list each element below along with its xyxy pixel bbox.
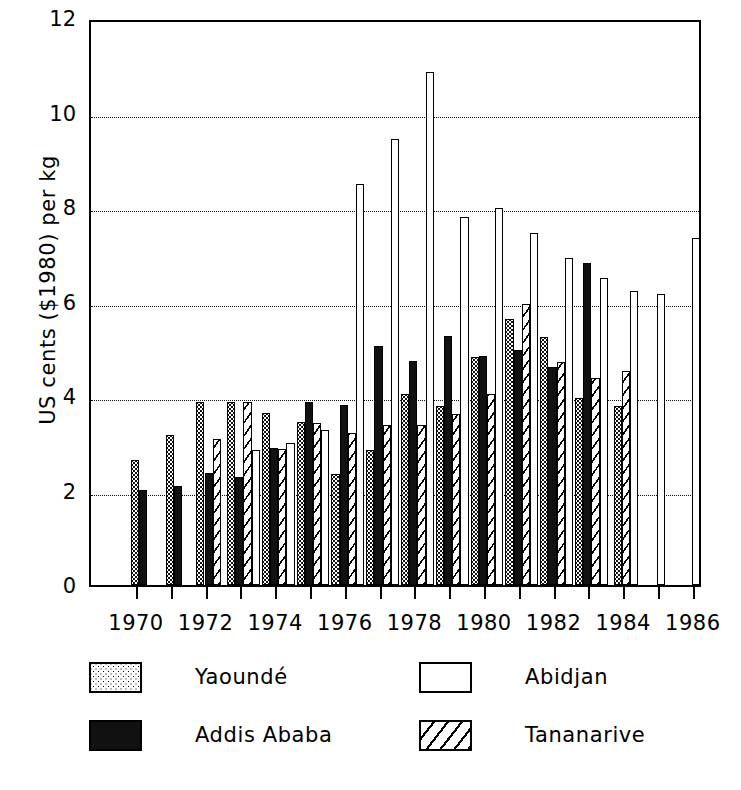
x-axis-tick-mark xyxy=(588,587,590,599)
bar xyxy=(622,371,630,585)
bar xyxy=(243,402,251,585)
bar xyxy=(313,423,321,585)
x-axis-tick-label: 1986 xyxy=(653,611,733,635)
bar xyxy=(460,217,468,585)
bar xyxy=(479,356,487,585)
x-axis-tick-label: 1976 xyxy=(305,611,385,635)
bar xyxy=(557,362,565,585)
x-axis-tick-label: 1978 xyxy=(374,611,454,635)
x-axis-tick-label: 1984 xyxy=(583,611,663,635)
bar xyxy=(262,413,270,585)
bar xyxy=(278,449,286,585)
x-axis-tick-mark xyxy=(380,587,382,599)
bar xyxy=(514,350,522,585)
y-axis-tick-label: 4 xyxy=(12,387,76,408)
bar xyxy=(487,394,495,585)
y-axis-tick-label: 8 xyxy=(12,198,76,219)
x-axis-tick-label: 1974 xyxy=(235,611,315,635)
bar xyxy=(657,294,665,585)
legend-label: Yaoundé xyxy=(195,660,288,694)
bar xyxy=(331,474,339,585)
x-axis-tick-mark xyxy=(449,587,451,599)
bar xyxy=(205,473,213,585)
bar xyxy=(340,405,348,585)
x-axis-tick-mark xyxy=(136,587,138,599)
bar xyxy=(417,425,425,585)
bar xyxy=(452,414,460,585)
legend-swatch-solid xyxy=(89,720,142,751)
x-axis-tick-mark xyxy=(693,587,695,599)
bar xyxy=(305,402,313,585)
bar xyxy=(252,450,260,585)
bar xyxy=(444,336,452,585)
bar xyxy=(583,263,591,585)
bar xyxy=(270,448,278,585)
legend-label: Tananarive xyxy=(525,718,645,752)
bar xyxy=(356,184,364,585)
bar xyxy=(374,346,382,585)
chart-legend: YaoundéAbidjanAddis AbabaTananarive xyxy=(89,660,709,780)
bar xyxy=(565,258,573,585)
gridline xyxy=(91,117,699,118)
bar xyxy=(401,394,409,585)
x-axis-tick-mark xyxy=(554,587,556,599)
x-axis-tick-mark xyxy=(345,587,347,599)
bar xyxy=(471,357,479,585)
bar xyxy=(348,433,356,585)
bar-chart-figure: US cents ($1980) per kg 024681012 197019… xyxy=(0,0,741,790)
bar xyxy=(227,402,235,585)
bar xyxy=(692,238,700,585)
bar xyxy=(530,233,538,585)
bar xyxy=(409,361,417,585)
x-axis-tick-mark xyxy=(171,587,173,599)
bar xyxy=(366,450,374,585)
bar xyxy=(436,406,444,585)
x-axis-tick-mark xyxy=(240,587,242,599)
x-axis-tick-mark xyxy=(484,587,486,599)
bar xyxy=(321,430,329,585)
bar xyxy=(540,337,548,585)
x-axis-tick-mark xyxy=(658,587,660,599)
plot-inner xyxy=(91,22,699,585)
x-axis-tick-mark xyxy=(206,587,208,599)
bar xyxy=(139,490,147,585)
bar xyxy=(426,72,434,585)
x-axis-tick-label: 1982 xyxy=(514,611,594,635)
bar xyxy=(174,486,182,585)
bar xyxy=(591,378,599,585)
bar xyxy=(505,319,513,585)
legend-label: Abidjan xyxy=(525,660,608,694)
x-axis-tick-mark xyxy=(310,587,312,599)
bar xyxy=(286,443,294,585)
y-axis-tick-label: 0 xyxy=(12,576,76,597)
bar xyxy=(630,291,638,585)
plot-area xyxy=(89,20,701,587)
bar xyxy=(196,402,204,585)
y-axis-tick-label: 10 xyxy=(12,104,76,125)
bar xyxy=(495,208,503,585)
bar xyxy=(383,425,391,585)
bar xyxy=(522,304,530,585)
y-axis-tick-label: 6 xyxy=(12,293,76,314)
x-axis-tick-mark xyxy=(623,587,625,599)
legend-swatch-hatch xyxy=(419,720,472,751)
x-axis-tick-label: 1970 xyxy=(96,611,176,635)
bar xyxy=(548,367,556,585)
x-axis-tick-label: 1980 xyxy=(444,611,524,635)
bar xyxy=(575,398,583,585)
legend-swatch-empty xyxy=(419,662,472,693)
bar xyxy=(235,477,243,585)
legend-label: Addis Ababa xyxy=(195,718,332,752)
y-axis-tick-label: 2 xyxy=(12,482,76,503)
x-axis-tick-label: 1972 xyxy=(166,611,246,635)
y-axis-tick-label: 12 xyxy=(12,9,76,30)
bar xyxy=(614,406,622,585)
bar xyxy=(131,460,139,585)
bar xyxy=(213,439,221,585)
x-axis-tick-mark xyxy=(519,587,521,599)
x-axis-tick-mark xyxy=(414,587,416,599)
bar xyxy=(600,278,608,585)
legend-swatch-dotted xyxy=(89,662,142,693)
x-axis-tick-mark xyxy=(275,587,277,599)
bar xyxy=(166,435,174,585)
